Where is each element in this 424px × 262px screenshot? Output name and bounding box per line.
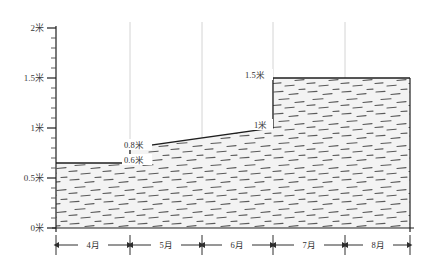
level-label-0-8: 0.8米 [124, 140, 144, 150]
y-tick-label-1: 1米 [31, 122, 45, 133]
y-tick-label-2: 2米 [31, 22, 45, 33]
water-level-chart: 2米 1.5米 1米 0.5米 0米 0.8米 0.6米 1米 1.5米 [0, 0, 424, 262]
y-tick-label-0: 0米 [31, 222, 45, 233]
x-tick-label-apr: 4月 [86, 240, 99, 250]
x-tick-label-jun: 6月 [230, 240, 243, 250]
x-tick-label-aug: 8月 [371, 240, 384, 250]
y-tick-label-1-5: 1.5米 [24, 72, 44, 83]
chart-canvas: 2米 1.5米 1米 0.5米 0米 0.8米 0.6米 1米 1.5米 [0, 0, 424, 262]
y-tick-label-0-5: 0.5米 [24, 172, 44, 183]
water-fill [56, 78, 410, 228]
water-area [56, 78, 410, 228]
level-label-0-6: 0.6米 [124, 155, 144, 165]
x-tick-label-may: 5月 [159, 240, 172, 250]
level-label-1-5: 1.5米 [245, 70, 265, 80]
level-label-1: 1米 [254, 120, 267, 130]
x-tick-label-jul: 7月 [302, 240, 315, 250]
month-labels: 4月 5月 6月 7月 8月 [78, 238, 393, 250]
